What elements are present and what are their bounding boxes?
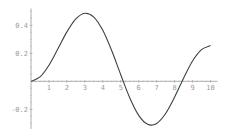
x-tick-label: 10 xyxy=(206,84,214,92)
y-tick-label: -0.2 xyxy=(11,106,28,114)
x-tick-label: 4 xyxy=(101,84,105,92)
y-tick-label: 0.4 xyxy=(15,22,28,30)
y-axis-ticks: 0.40.2-0.2 xyxy=(11,11,32,123)
x-tick-label: 1 xyxy=(47,84,51,92)
x-tick-label: 9 xyxy=(190,84,194,92)
x-tick-label: 5 xyxy=(119,84,123,92)
x-tick-label: 7 xyxy=(155,84,159,92)
x-tick-label: 8 xyxy=(172,84,176,92)
axes xyxy=(31,9,218,129)
x-tick-label: 2 xyxy=(65,84,69,92)
data-line xyxy=(31,13,211,125)
y-tick-label: 0.2 xyxy=(15,50,28,58)
x-tick-label: 3 xyxy=(83,84,87,92)
line-chart: 12345678910 0.40.2-0.2 xyxy=(0,0,227,138)
x-tick-label: 6 xyxy=(137,84,141,92)
